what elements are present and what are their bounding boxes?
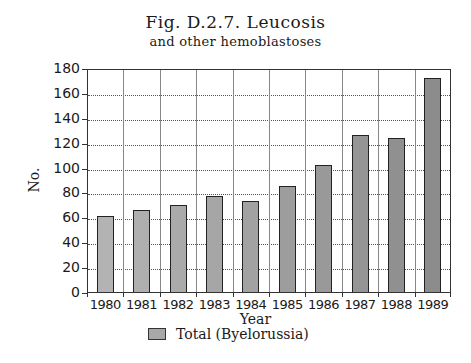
y-tick-label: 80: [44, 184, 80, 200]
v-gridline: [305, 70, 306, 292]
bar-1980: [97, 216, 114, 292]
x-tick-mark: [123, 293, 124, 297]
y-tick-label: 0: [44, 284, 80, 300]
bar-1984: [242, 201, 259, 292]
v-gridline: [233, 70, 234, 292]
x-tick-mark: [160, 293, 161, 297]
x-tick-mark: [305, 293, 306, 297]
x-axis-label: Year: [0, 311, 471, 327]
y-axis-label: No.: [26, 168, 42, 193]
chart-title: Fig. D.2.7. Leucosis: [0, 12, 471, 32]
y-tick-label: 60: [44, 209, 80, 225]
v-gridline: [269, 70, 270, 292]
bar-1982: [170, 205, 187, 292]
legend: Total (Byelorussia): [148, 326, 309, 342]
y-tick-label: 180: [44, 60, 80, 76]
bar-1989: [424, 78, 441, 292]
bar-1986: [315, 165, 332, 292]
bar-1985: [279, 186, 296, 292]
x-tick-label: 1980: [87, 297, 123, 312]
bar-1983: [206, 196, 223, 292]
y-tick-label: 20: [44, 259, 80, 275]
x-tick-mark: [87, 293, 88, 297]
bar-1988: [388, 138, 405, 292]
x-tick-mark: [233, 293, 234, 297]
x-tick-label: 1981: [123, 297, 159, 312]
v-gridline: [196, 70, 197, 292]
v-gridline: [160, 70, 161, 292]
y-tick-label: 140: [44, 110, 80, 126]
legend-swatch-total: [148, 328, 166, 340]
chart-subtitle: and other hemoblastoses: [0, 34, 471, 49]
x-tick-mark: [269, 293, 270, 297]
bar-1987: [352, 135, 369, 292]
x-tick-label: 1988: [378, 297, 414, 312]
x-tick-mark: [342, 293, 343, 297]
x-tick-label: 1987: [342, 297, 378, 312]
x-tick-mark: [450, 293, 451, 297]
plot-area: [87, 69, 451, 293]
v-gridline: [123, 70, 124, 292]
v-gridline: [342, 70, 343, 292]
x-tick-mark: [196, 293, 197, 297]
y-tick-label: 160: [44, 85, 80, 101]
x-tick-mark: [378, 293, 379, 297]
bar-1981: [133, 210, 150, 292]
x-tick-label: 1984: [233, 297, 269, 312]
x-tick-label: 1983: [196, 297, 232, 312]
x-tick-label: 1985: [269, 297, 305, 312]
x-tick-label: 1986: [305, 297, 341, 312]
y-tick-label: 40: [44, 234, 80, 250]
v-gridline: [415, 70, 416, 292]
v-gridline: [378, 70, 379, 292]
legend-label-total: Total (Byelorussia): [176, 326, 309, 342]
x-tick-mark: [415, 293, 416, 297]
x-tick-label: 1989: [415, 297, 451, 312]
x-tick-label: 1982: [160, 297, 196, 312]
y-tick-label: 100: [44, 160, 80, 176]
y-tick-label: 120: [44, 135, 80, 151]
